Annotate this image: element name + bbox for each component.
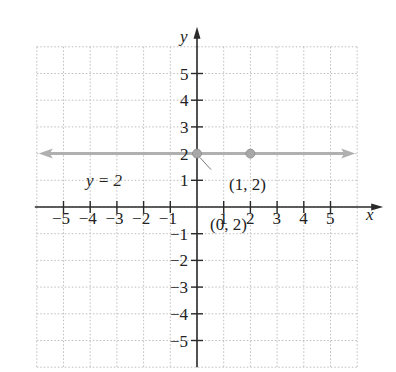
axes xyxy=(35,27,383,367)
line-label: y = 2 xyxy=(86,172,122,189)
y-tick-label: 4 xyxy=(180,92,189,109)
x-tick-label: −3 xyxy=(105,210,123,227)
y-tick-label: −5 xyxy=(170,333,188,350)
y-axis-label: y xyxy=(180,28,188,45)
x-tick-label: 4 xyxy=(299,210,308,227)
x-tick-label: 2 xyxy=(246,210,255,227)
y-tick-label: −4 xyxy=(170,306,188,323)
x-tick-label: 5 xyxy=(326,210,335,227)
y-tick-label: 1 xyxy=(180,172,189,189)
y-tick-label: 5 xyxy=(180,66,189,83)
line-label-text: y = 2 xyxy=(86,171,122,190)
x-axis-label: x xyxy=(366,206,374,223)
x-tick-label: −2 xyxy=(132,210,150,227)
y-tick-label: −3 xyxy=(170,279,188,296)
point-label-1-2: (1, 2) xyxy=(229,176,266,193)
point-label-0-2: (0, 2) xyxy=(210,216,247,233)
x-tick-label: −4 xyxy=(79,210,97,227)
y-tick-label: 2 xyxy=(180,146,189,163)
y-tick-label: 3 xyxy=(180,119,189,136)
x-tick-label: −5 xyxy=(52,210,70,227)
x-tick-label: 3 xyxy=(273,210,282,227)
y-tick-label: −2 xyxy=(170,252,188,269)
y-tick-label: −1 xyxy=(170,226,188,243)
coordinate-plane xyxy=(0,0,396,372)
